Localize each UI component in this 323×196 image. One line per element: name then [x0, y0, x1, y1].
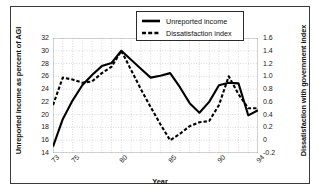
- y-axis-right-tick-label: 0.6: [263, 98, 283, 105]
- series-line: [53, 51, 258, 147]
- x-axis-title: Year: [60, 177, 260, 186]
- y-axis-left-title: Unreported income as percent of AGI: [14, 26, 23, 156]
- y-axis-right-tick-label: 1.0: [263, 72, 283, 79]
- data-series-layer: [53, 51, 258, 147]
- y-axis-left-tick-label: 22: [33, 98, 49, 105]
- y-axis-right-tick-label: 0: [263, 136, 283, 143]
- y-axis-right-tick-label: -0.2: [263, 149, 283, 156]
- plot-svg: [53, 38, 258, 153]
- y-axis-left-tick-label: 24: [33, 85, 49, 92]
- y-axis-right-tick-label: 0.4: [263, 111, 283, 118]
- plot-area: [53, 38, 258, 153]
- y-axis-left-tick-label: 26: [33, 72, 49, 79]
- legend-label: Dissatisfaction index: [166, 29, 232, 38]
- y-axis-left-tick-label: 28: [33, 60, 49, 67]
- y-axis-left-tick-label: 20: [33, 111, 49, 118]
- y-axis-right-tick-label: 1.6: [263, 34, 283, 41]
- y-axis-left-tick-label: 16: [33, 136, 49, 143]
- chart-figure: Unreported income as percent of AGI Diss…: [0, 0, 323, 196]
- solid-line-key-icon: [141, 16, 161, 26]
- plot-border: [53, 38, 258, 153]
- legend-label: Unreported income: [166, 17, 227, 26]
- y-axis-right-tick-label: 0.2: [263, 123, 283, 130]
- chart-legend: Unreported income Dissatisfaction index: [136, 11, 244, 41]
- y-axis-right-title: Dissatisfaction with government index: [299, 18, 308, 164]
- y-axis-right-tick-label: 1.2: [263, 60, 283, 67]
- y-axis-left-tick-label: 32: [33, 34, 49, 41]
- y-axis-left-tick-label: 18: [33, 123, 49, 130]
- y-axis-right-tick-label: 0.8: [263, 85, 283, 92]
- y-axis-left-tick-label: 14: [33, 149, 49, 156]
- series-line: [53, 51, 258, 140]
- gridlines: [53, 38, 258, 153]
- legend-item: Unreported income: [141, 15, 240, 27]
- y-axis-right-tick-label: 1.4: [263, 47, 283, 54]
- dashed-line-key-icon: [141, 28, 161, 38]
- legend-item: Dissatisfaction index: [141, 27, 240, 39]
- y-axis-left-tick-label: 30: [33, 47, 49, 54]
